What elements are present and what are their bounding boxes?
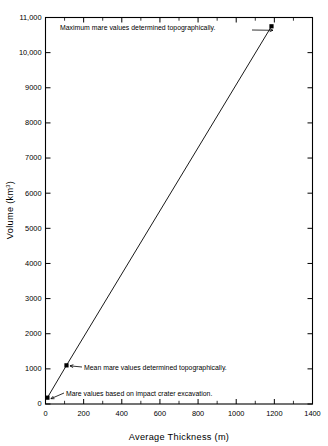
x-tick-label: 0 [43, 409, 47, 418]
y-tick-label: 10,000 [19, 48, 42, 57]
y-tick-label: 9000 [25, 83, 41, 92]
x-axis-tick-labels: 0200400600800100012001400 [43, 409, 320, 418]
annotation-impact-crater: Mare values based on impact crater excav… [66, 390, 212, 398]
y-axis-title-main: Volume (km [5, 188, 15, 240]
y-tick-label: 4000 [25, 259, 41, 268]
x-tick-label: 600 [154, 409, 166, 418]
y-tick-label: 3000 [25, 294, 41, 303]
chart-svg: 010002000300040005000600070008000900010,… [0, 0, 328, 446]
x-tick-label: 1400 [304, 409, 320, 418]
y-axis-ticks [46, 18, 313, 405]
data-point-marker [269, 24, 273, 28]
annotation-leaders [51, 29, 273, 399]
x-tick-label: 400 [116, 409, 128, 418]
y-axis-title: Volume (km3) [5, 181, 15, 239]
y-tick-label: 0 [37, 399, 41, 408]
y-tick-label: 1000 [25, 364, 41, 373]
y-tick-label: 8000 [25, 118, 41, 127]
chart-figure: 010002000300040005000600070008000900010,… [0, 0, 328, 446]
y-tick-label: 5000 [25, 224, 41, 233]
y-tick-label: 7000 [25, 153, 41, 162]
annotation-maximum-mare: Maximum mare values determined topograph… [60, 24, 215, 32]
y-axis-tick-labels: 010002000300040005000600070008000900010,… [19, 13, 42, 409]
x-tick-label: 200 [77, 409, 89, 418]
x-tick-label: 1200 [266, 409, 282, 418]
data-point-marker [64, 363, 68, 367]
data-point-marker [45, 396, 49, 400]
svg-text:Volume (km3): Volume (km3) [5, 181, 15, 239]
x-tick-label: 800 [192, 409, 204, 418]
x-axis-title: Average Thickness (m) [129, 432, 229, 442]
plot-frame [46, 18, 313, 405]
data-series-mare [45, 24, 273, 400]
x-axis-ticks [46, 18, 313, 405]
y-tick-label: 6000 [25, 189, 41, 198]
annotation-mean-mare: Mean mare values determined topographica… [84, 364, 227, 372]
y-axis-title-suffix: ) [5, 181, 15, 184]
x-tick-label: 1000 [228, 409, 244, 418]
y-tick-label: 2000 [25, 329, 41, 338]
y-tick-label: 11,000 [19, 13, 41, 22]
data-line [47, 26, 271, 397]
